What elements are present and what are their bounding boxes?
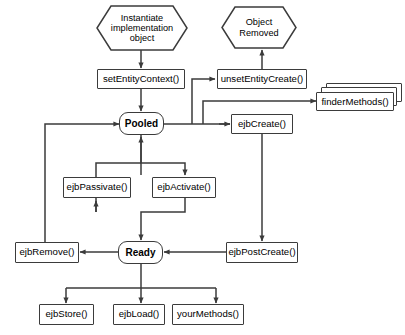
node-ejb-create[interactable]: ejbCreate()	[231, 114, 293, 134]
node-ejb-passivate[interactable]: ejbPassivate()	[63, 177, 131, 198]
node-finder-methods[interactable]: finderMethods()	[316, 83, 402, 116]
node-set-entity-context-label: setEntityContext()	[103, 74, 179, 85]
node-instantiate-label: Instantiate implementation object	[96, 13, 188, 44]
node-ejb-activate-label: ejbActivate()	[157, 182, 210, 193]
finder-methods-layer-front: finderMethods()	[316, 92, 394, 111]
node-instantiate[interactable]: Instantiate implementation object	[96, 5, 188, 51]
node-ejb-post-create-label: ejbPostCreate()	[228, 247, 295, 258]
node-ejb-load-label: ejbLoad()	[119, 309, 160, 320]
node-ejb-remove[interactable]: ejbRemove()	[15, 242, 79, 263]
node-object-removed[interactable]: Object Removed	[221, 6, 297, 49]
node-ready-label: Ready	[125, 247, 155, 258]
node-ejb-passivate-label: ejbPassivate()	[67, 182, 128, 193]
node-your-methods-label: yourMethods()	[177, 309, 239, 320]
node-ejb-activate[interactable]: ejbActivate()	[152, 177, 216, 198]
node-object-removed-label: Object Removed	[221, 17, 297, 38]
node-unset-entity-create-label: unsetEntityCreate()	[221, 74, 304, 85]
node-pooled-label: Pooled	[125, 118, 158, 129]
node-ejb-load[interactable]: ejbLoad()	[113, 304, 165, 325]
node-ejb-store-label: ejbStore()	[45, 309, 87, 320]
node-ready[interactable]: Ready	[118, 241, 163, 264]
node-ejb-remove-label: ejbRemove()	[20, 247, 75, 258]
node-pooled[interactable]: Pooled	[119, 112, 164, 135]
diagram-canvas: Instantiate implementation object Object…	[0, 0, 405, 335]
node-ejb-post-create[interactable]: ejbPostCreate()	[226, 242, 298, 263]
node-set-entity-context[interactable]: setEntityContext()	[97, 69, 185, 89]
node-unset-entity-create[interactable]: unsetEntityCreate()	[217, 69, 307, 89]
diagram-connectors	[0, 0, 405, 335]
node-ejb-store[interactable]: ejbStore()	[39, 304, 94, 325]
node-finder-methods-label: finderMethods()	[321, 96, 388, 107]
edge-ejbactivate-to-ready	[141, 198, 185, 240]
edge-pooled-to-ejbactivate	[141, 134, 185, 175]
node-your-methods[interactable]: yourMethods()	[172, 304, 244, 325]
node-ejb-create-label: ejbCreate()	[238, 119, 286, 130]
